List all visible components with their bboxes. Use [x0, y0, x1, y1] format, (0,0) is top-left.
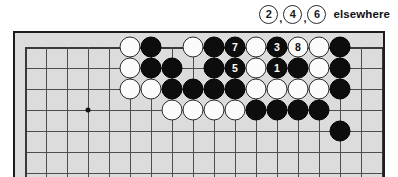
- board-gridline-horizontal: [25, 173, 382, 174]
- go-stone-black: [162, 79, 183, 100]
- go-board: 73851: [13, 31, 385, 177]
- board-gridline-vertical: [109, 47, 110, 177]
- go-stone-black: [141, 58, 162, 79]
- board-gridline-horizontal: [25, 152, 382, 153]
- board-gridline-vertical: [46, 47, 47, 177]
- go-stone-black: [330, 121, 351, 142]
- go-stone-white: [141, 79, 162, 100]
- go-stone-white: [288, 79, 309, 100]
- go-stone-black-move-1: 1: [267, 58, 288, 79]
- go-stone-black-move-3: 3: [267, 37, 288, 58]
- go-stone-black-move-5: 5: [225, 58, 246, 79]
- go-stone-black: [267, 100, 288, 121]
- go-stone-black: [330, 37, 351, 58]
- go-stone-black: [204, 37, 225, 58]
- go-board-grid: 73851: [15, 33, 383, 177]
- go-stone-black: [162, 58, 183, 79]
- go-stone-black: [330, 58, 351, 79]
- go-stone-white: [309, 37, 330, 58]
- go-stone-white: [204, 100, 225, 121]
- go-stone-black: [309, 100, 330, 121]
- go-stone-black-move-7: 7: [225, 37, 246, 58]
- go-stone-white: [120, 58, 141, 79]
- go-stone-black: [204, 58, 225, 79]
- go-stone-white: [309, 58, 330, 79]
- go-stone-black: [225, 79, 246, 100]
- go-stone-black: [183, 79, 204, 100]
- board-gridline-vertical: [25, 47, 27, 177]
- go-stone-black: [141, 37, 162, 58]
- go-stone-white: [309, 79, 330, 100]
- board-gridline-horizontal: [25, 131, 382, 132]
- caption-label: elsewhere: [333, 8, 390, 20]
- caption-move-stone-2: 2: [259, 5, 278, 24]
- go-stone-white: [183, 100, 204, 121]
- board-star-point: [86, 108, 91, 113]
- go-stone-black: [288, 58, 309, 79]
- go-stone-black: [330, 79, 351, 100]
- board-gridline-vertical: [361, 47, 362, 177]
- go-stone-white: [183, 37, 204, 58]
- board-gridline-vertical: [67, 47, 68, 177]
- caption-move-stone-6: 6: [307, 5, 326, 24]
- go-stone-black: [246, 100, 267, 121]
- go-stone-black: [288, 100, 309, 121]
- go-stone-white: [225, 100, 246, 121]
- go-stone-white: [162, 100, 183, 121]
- go-stone-white: [120, 37, 141, 58]
- caption-content: 2 , 4 , 6 elsewhere: [259, 3, 390, 25]
- go-stone-white: [120, 79, 141, 100]
- go-stone-white: [246, 37, 267, 58]
- go-stone-white: [267, 79, 288, 100]
- diagram-caption: 2 , 4 , 6 elsewhere: [0, 0, 398, 30]
- go-stone-white: [246, 58, 267, 79]
- board-gridline-vertical: [382, 47, 384, 177]
- go-stone-white-move-8: 8: [288, 37, 309, 58]
- caption-move-stone-4: 4: [283, 5, 302, 24]
- go-stone-black: [204, 79, 225, 100]
- go-stone-white: [246, 79, 267, 100]
